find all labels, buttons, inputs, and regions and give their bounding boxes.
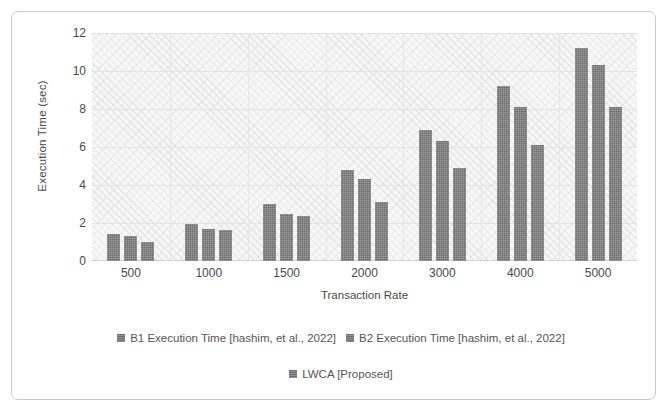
bar[interactable] bbox=[419, 130, 432, 261]
bar[interactable] bbox=[219, 230, 232, 261]
bar-groups bbox=[92, 33, 637, 261]
x-tick-label: 1000 bbox=[170, 266, 248, 280]
y-tick-label: 6 bbox=[58, 140, 86, 154]
bar-group bbox=[403, 33, 481, 261]
legend-label: LWCA [Proposed] bbox=[302, 368, 393, 380]
x-axis-title: Transaction Rate bbox=[92, 289, 637, 301]
y-axis-tick-labels: 121086420 bbox=[58, 33, 86, 261]
y-tick-label: 12 bbox=[58, 26, 86, 40]
bar[interactable] bbox=[141, 242, 154, 261]
bar-group bbox=[170, 33, 248, 261]
legend-item[interactable]: B2 Execution Time [hashim, et al., 2022] bbox=[346, 332, 565, 344]
bar[interactable] bbox=[453, 168, 466, 261]
chart-legend: B1 Execution Time [hashim, et al., 2022]… bbox=[56, 332, 626, 380]
bar-group bbox=[248, 33, 326, 261]
y-tick-label: 2 bbox=[58, 216, 86, 230]
x-tick-label: 2000 bbox=[326, 266, 404, 280]
bar[interactable] bbox=[575, 48, 588, 261]
bar[interactable] bbox=[107, 234, 120, 261]
bar[interactable] bbox=[297, 216, 310, 261]
bar-group bbox=[92, 33, 170, 261]
bar[interactable] bbox=[263, 204, 276, 261]
bar[interactable] bbox=[436, 141, 449, 261]
bar-group bbox=[559, 33, 637, 261]
y-tick-label: 0 bbox=[58, 254, 86, 268]
bar[interactable] bbox=[531, 145, 544, 261]
legend-label: B2 Execution Time [hashim, et al., 2022] bbox=[359, 332, 565, 344]
bar-chart: Execution Time (sec) 121086420 500100015… bbox=[12, 12, 657, 401]
figure-frame: Execution Time (sec) 121086420 500100015… bbox=[11, 11, 656, 400]
bar[interactable] bbox=[358, 179, 371, 261]
bar[interactable] bbox=[514, 107, 527, 261]
bar[interactable] bbox=[124, 236, 137, 261]
y-tick-label: 8 bbox=[58, 102, 86, 116]
bar[interactable] bbox=[341, 170, 354, 261]
legend-swatch-icon bbox=[117, 334, 125, 342]
legend-item[interactable]: LWCA [Proposed] bbox=[289, 368, 393, 380]
bar[interactable] bbox=[280, 214, 293, 262]
y-axis-title: Execution Time (sec) bbox=[36, 46, 48, 226]
y-tick-label: 4 bbox=[58, 178, 86, 192]
legend-swatch-icon bbox=[289, 370, 297, 378]
bar[interactable] bbox=[497, 86, 510, 261]
bar-group bbox=[481, 33, 559, 261]
x-tick-label: 1500 bbox=[248, 266, 326, 280]
legend-swatch-icon bbox=[346, 334, 354, 342]
x-tick-label: 4000 bbox=[481, 266, 559, 280]
bar[interactable] bbox=[375, 202, 388, 261]
x-tick-label: 500 bbox=[92, 266, 170, 280]
legend-item[interactable]: B1 Execution Time [hashim, et al., 2022] bbox=[117, 332, 336, 344]
bar-group bbox=[326, 33, 404, 261]
x-axis-tick-labels: 500100015002000300040005000 bbox=[92, 266, 637, 280]
bar[interactable] bbox=[202, 229, 215, 261]
plot-area bbox=[92, 33, 637, 261]
bar[interactable] bbox=[609, 107, 622, 261]
x-tick-label: 5000 bbox=[559, 266, 637, 280]
y-tick-label: 10 bbox=[58, 64, 86, 78]
bar[interactable] bbox=[185, 224, 198, 261]
bar[interactable] bbox=[592, 65, 605, 261]
legend-label: B1 Execution Time [hashim, et al., 2022] bbox=[130, 332, 336, 344]
x-tick-label: 3000 bbox=[403, 266, 481, 280]
